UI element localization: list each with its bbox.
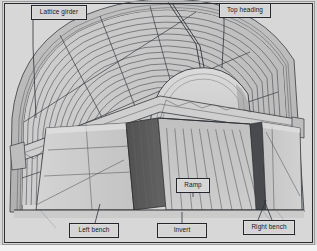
- callout-ramp[interactable]: Ramp: [176, 178, 210, 193]
- page-bottom-margin: [0, 245, 317, 251]
- callout-right-bench[interactable]: Right bench: [243, 220, 295, 235]
- callout-lattice-girder[interactable]: Lattice girder: [31, 5, 87, 20]
- figure-canvas: Lattice girder Top heading Ramp Left ben…: [0, 0, 317, 251]
- callout-invert[interactable]: Invert: [157, 223, 207, 238]
- tunnel-cross-section-drawing: [0, 0, 317, 251]
- callout-top-heading[interactable]: Top heading: [219, 3, 271, 18]
- scan-texture: [0, 0, 317, 251]
- callout-left-bench[interactable]: Left bench: [69, 223, 119, 238]
